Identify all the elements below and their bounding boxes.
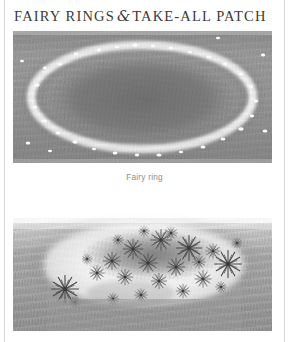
fairy-ring-illustration: [13, 31, 272, 163]
ampersand-glyph: &: [115, 7, 132, 25]
page-title-part2: TAKE-ALL PATCH: [132, 8, 266, 24]
figure-caption-fairy-ring: Fairy ring: [0, 173, 289, 182]
page-canvas: FAIRY RINGS&TAKE-ALL PATCH: [0, 0, 289, 342]
page-title-part1: FAIRY RINGS: [14, 8, 115, 24]
figure-fairy-ring: [13, 31, 272, 163]
page-title: FAIRY RINGS&TAKE-ALL PATCH: [14, 7, 274, 27]
figure-take-all-patch: [13, 207, 272, 331]
take-all-patch-illustration: [13, 207, 272, 331]
page-rule-left: [4, 0, 5, 342]
page-rule-right: [284, 0, 285, 342]
